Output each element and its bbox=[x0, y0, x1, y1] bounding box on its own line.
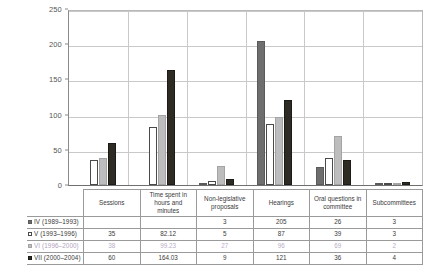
bar-group bbox=[69, 11, 128, 185]
table-cell: 3 bbox=[366, 216, 423, 228]
bar-group bbox=[128, 11, 187, 185]
y-axis: 050100150200250 bbox=[28, 8, 68, 188]
bar bbox=[375, 183, 383, 185]
legend-swatch-icon bbox=[28, 244, 32, 248]
table-cell bbox=[140, 216, 197, 228]
table-cell: 60 bbox=[84, 252, 141, 264]
bar bbox=[266, 124, 274, 185]
bar bbox=[402, 182, 410, 185]
table-head: SessionsTime spent in hours and minutesN… bbox=[27, 190, 423, 217]
bar bbox=[90, 160, 98, 185]
table-column-header: Oral questions in committee bbox=[310, 190, 367, 217]
legend-label-text: V (1993–1996) bbox=[34, 230, 77, 237]
bar-group bbox=[363, 11, 422, 185]
table-cell: 3 bbox=[197, 216, 254, 228]
table-body: IV (1989–1993)3205263V (1993–1996)3582.1… bbox=[27, 216, 423, 264]
bar bbox=[226, 179, 234, 185]
bar bbox=[208, 181, 216, 185]
table-cell: 69 bbox=[310, 240, 367, 252]
table-cell: 164.03 bbox=[140, 252, 197, 264]
bar bbox=[199, 183, 207, 185]
legend-swatch-icon bbox=[28, 232, 32, 236]
legend-swatch-icon bbox=[28, 256, 32, 260]
chart-plot-area: 050100150200250 bbox=[0, 0, 441, 196]
table-cell: 121 bbox=[253, 252, 310, 264]
bar bbox=[99, 158, 107, 185]
bar bbox=[108, 143, 116, 185]
table-column-header: Subcommittees bbox=[366, 190, 423, 217]
bar-group bbox=[304, 11, 363, 185]
table-cell: 2 bbox=[366, 240, 423, 252]
legend-row-label: V (1993–1996) bbox=[27, 228, 84, 240]
legend-row-label: VII (2000–2004) bbox=[27, 252, 84, 264]
y-axis-tick-label: 50 bbox=[53, 145, 62, 154]
table-corner-cell bbox=[27, 190, 84, 217]
table-cell: 36 bbox=[310, 252, 367, 264]
legend-row-label: VI (1996–2000) bbox=[27, 240, 84, 252]
table-row: V (1993–1996)3582.12587393 bbox=[27, 228, 423, 240]
bar bbox=[275, 117, 283, 185]
y-axis-tick-label: 100 bbox=[49, 110, 62, 119]
table-cell: 82.12 bbox=[140, 228, 197, 240]
table-cell: 38 bbox=[84, 240, 141, 252]
legend-label-text: VI (1996–2000) bbox=[34, 242, 79, 249]
table-column-header: Sessions bbox=[84, 190, 141, 217]
bar-group bbox=[187, 11, 246, 185]
bar bbox=[334, 136, 342, 185]
table-cell: 96 bbox=[253, 240, 310, 252]
bar bbox=[316, 167, 324, 185]
table-column-header: Time spent in hours and minutes bbox=[140, 190, 197, 217]
bar-group bbox=[245, 11, 304, 185]
bar bbox=[384, 183, 392, 185]
y-axis-tick-label: 250 bbox=[49, 5, 62, 14]
bar bbox=[167, 70, 175, 185]
table-cell: 35 bbox=[84, 228, 141, 240]
legend-label-text: IV (1989–1993) bbox=[34, 218, 79, 225]
chart-page: 050100150200250 SessionsTime spent in ho… bbox=[0, 0, 441, 269]
bar bbox=[393, 183, 401, 185]
table-cell: 39 bbox=[310, 228, 367, 240]
bar bbox=[325, 158, 333, 185]
table-column-header: Hearings bbox=[253, 190, 310, 217]
table-cell: 4 bbox=[366, 252, 423, 264]
table-cell bbox=[84, 216, 141, 228]
table-cell: 99.23 bbox=[140, 240, 197, 252]
table-header-row: SessionsTime spent in hours and minutesN… bbox=[27, 190, 423, 217]
bar bbox=[217, 166, 225, 185]
bar bbox=[257, 41, 265, 185]
bar bbox=[149, 127, 157, 185]
table-cell: 26 bbox=[310, 216, 367, 228]
table-cell: 205 bbox=[253, 216, 310, 228]
data-table-wrapper: SessionsTime spent in hours and minutesN… bbox=[27, 189, 423, 265]
table-cell: 27 bbox=[197, 240, 254, 252]
plot-canvas bbox=[68, 10, 423, 186]
bar bbox=[343, 160, 351, 185]
data-table: SessionsTime spent in hours and minutesN… bbox=[27, 189, 423, 265]
table-row: VII (2000–2004)60164.039121364 bbox=[27, 252, 423, 264]
legend-row-label: IV (1989–1993) bbox=[27, 216, 84, 228]
bar bbox=[158, 115, 166, 185]
bar bbox=[284, 100, 292, 185]
y-axis-tick-label: 200 bbox=[49, 40, 62, 49]
y-axis-tick-label: 150 bbox=[49, 75, 62, 84]
table-cell: 9 bbox=[197, 252, 254, 264]
table-row: IV (1989–1993)3205263 bbox=[27, 216, 423, 228]
table-cell: 87 bbox=[253, 228, 310, 240]
table-column-header: Non-legislative proposals bbox=[197, 190, 254, 217]
table-cell: 5 bbox=[197, 228, 254, 240]
bar-groups bbox=[69, 11, 422, 185]
table-row: VI (1996–2000)3899.232796692 bbox=[27, 240, 423, 252]
legend-swatch-icon bbox=[28, 220, 32, 224]
legend-label-text: VII (2000–2004) bbox=[34, 254, 81, 261]
table-cell: 3 bbox=[366, 228, 423, 240]
